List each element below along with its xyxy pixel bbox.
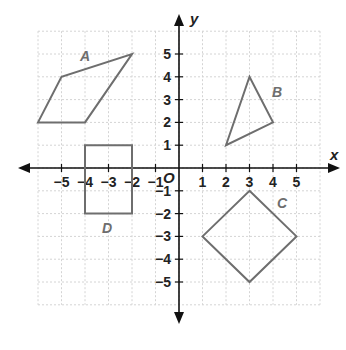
x-tick-label: −3 [101,174,117,190]
origin-label: O [163,169,175,186]
x-tick-label: 5 [293,174,301,190]
y-tick-label: 2 [163,114,171,130]
shape-d-label: D [102,220,112,236]
axes [18,14,340,324]
x-axis-right-arrow-icon [328,163,340,173]
y-axis-up-arrow-icon [174,14,184,26]
y-tick-label: −3 [155,228,171,244]
x-tick-label: 2 [222,174,230,190]
x-tick-label: −5 [54,174,70,190]
x-tick-label: 4 [269,174,277,190]
y-tick-label: −4 [155,251,171,267]
shape-b-label: B [272,84,282,100]
y-tick-label: 3 [163,92,171,108]
y-tick-label: 1 [163,137,171,153]
y-tick-label: −5 [155,274,171,290]
x-axis-label: x [329,146,339,163]
shape-a-label: A [79,48,90,64]
y-tick-label: 5 [163,46,171,62]
shape-c-label: C [277,195,288,211]
y-tick-label: 4 [163,69,171,85]
y-tick-label: −2 [155,206,171,222]
y-axis-down-arrow-icon [174,312,184,324]
x-tick-label: 1 [199,174,207,190]
coordinate-plane: −5−4−3−2−11234554321−1−2−3−4−5 x y O A B… [0,0,346,350]
x-tick-label: 3 [246,174,254,190]
x-axis-left-arrow-icon [18,163,30,173]
shape-b-triangle [226,77,273,145]
y-axis-label: y [189,10,199,27]
